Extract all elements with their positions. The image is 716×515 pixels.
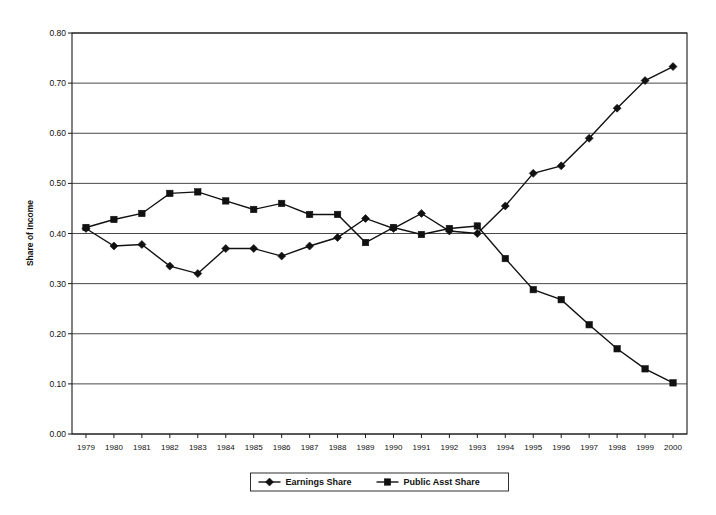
x-axis-tick-label: 1983 — [189, 443, 207, 452]
data-point-marker-public-asst-share — [111, 216, 117, 222]
line-chart: 0.800.700.600.500.400.300.200.100.00 Sha… — [0, 0, 716, 515]
legend-label-earnings-share: Earnings Share — [286, 477, 352, 487]
y-axis-tick-labels: 0.800.700.600.500.400.300.200.100.00 — [49, 28, 66, 439]
data-point-marker-earnings-share — [250, 245, 258, 253]
data-point-marker-public-asst-share — [530, 286, 536, 292]
data-point-marker-public-asst-share — [558, 296, 564, 302]
data-point-marker-public-asst-share — [362, 239, 368, 245]
x-axis-tick-label: 1999 — [636, 443, 654, 452]
data-point-marker-public-asst-share — [586, 322, 592, 328]
data-point-marker-public-asst-share — [670, 380, 676, 386]
data-point-marker-public-asst-share — [251, 206, 257, 212]
data-point-marker-public-asst-share — [195, 189, 201, 195]
data-point-marker-public-asst-share — [390, 224, 396, 230]
y-axis-title: Share of Income — [25, 200, 35, 266]
x-axis-tick-label: 1981 — [133, 443, 151, 452]
y-axis-tickmarks — [68, 33, 72, 434]
x-axis-tick-label: 1984 — [217, 443, 235, 452]
series-line-public-asst-share — [86, 192, 673, 383]
x-axis-tick-label: 1989 — [357, 443, 375, 452]
data-point-marker-earnings-share — [362, 214, 370, 222]
data-point-marker-earnings-share — [306, 242, 314, 250]
data-point-marker-public-asst-share — [223, 198, 229, 204]
x-axis-tick-label: 1982 — [161, 443, 179, 452]
chart-container: 0.800.700.600.500.400.300.200.100.00 Sha… — [0, 0, 716, 515]
x-axis-tick-label: 1987 — [301, 443, 319, 452]
data-point-marker-public-asst-share — [278, 200, 284, 206]
x-axis-tick-label: 1993 — [468, 443, 486, 452]
chart-legend: Earnings SharePublic Asst Share — [251, 473, 509, 491]
x-axis-tick-label: 1986 — [273, 443, 291, 452]
y-axis-tick-label: 0.20 — [49, 329, 66, 339]
data-point-marker-earnings-share — [278, 252, 286, 260]
series-public-asst-share — [83, 189, 676, 386]
x-axis-tick-label: 1991 — [413, 443, 431, 452]
gridlines — [72, 33, 687, 434]
series-earnings-share — [82, 63, 677, 278]
data-point-marker-public-asst-share — [334, 211, 340, 217]
y-axis-tick-label: 0.50 — [49, 178, 66, 188]
data-point-marker-public-asst-share — [502, 255, 508, 261]
x-axis-tickmarks — [86, 434, 673, 438]
x-axis-tick-labels: 1979198019811982198319841985198619871988… — [77, 443, 682, 452]
y-axis-tick-label: 0.80 — [49, 28, 66, 38]
data-series-layer — [82, 63, 677, 386]
series-line-earnings-share — [86, 67, 673, 274]
y-axis-tick-label: 0.70 — [49, 78, 66, 88]
y-axis-tick-label: 0.10 — [49, 379, 66, 389]
x-axis-tick-label: 1994 — [496, 443, 514, 452]
data-point-marker-public-asst-share — [167, 190, 173, 196]
y-axis-tick-label: 0.00 — [49, 429, 66, 439]
data-point-marker-earnings-share — [334, 234, 342, 242]
x-axis-tick-label: 1996 — [552, 443, 570, 452]
y-axis-tick-label: 0.30 — [49, 279, 66, 289]
x-axis-tick-label: 1998 — [608, 443, 626, 452]
data-point-marker-public-asst-share — [446, 225, 452, 231]
data-point-marker-earnings-share — [110, 242, 118, 250]
legend-label-public-asst-share: Public Asst Share — [404, 477, 480, 487]
x-axis-tick-label: 2000 — [664, 443, 682, 452]
data-point-marker-earnings-share — [669, 63, 677, 71]
x-axis-tick-label: 1995 — [524, 443, 542, 452]
data-point-marker-public-asst-share — [139, 210, 145, 216]
data-point-marker-public-asst-share — [306, 211, 312, 217]
data-point-marker-earnings-share — [417, 209, 425, 217]
x-axis-tick-label: 1990 — [385, 443, 403, 452]
data-point-marker-public-asst-share — [614, 346, 620, 352]
data-point-marker-public-asst-share — [474, 223, 480, 229]
x-axis-tick-label: 1979 — [77, 443, 95, 452]
y-axis-tick-label: 0.40 — [49, 229, 66, 239]
data-point-marker-public-asst-share — [83, 224, 89, 230]
x-axis-tick-label: 1997 — [580, 443, 598, 452]
x-axis-tick-label: 1988 — [329, 443, 347, 452]
data-point-marker-public-asst-share — [642, 366, 648, 372]
data-point-marker-public-asst-share — [418, 231, 424, 237]
y-axis-tick-label: 0.60 — [49, 128, 66, 138]
x-axis-tick-label: 1992 — [440, 443, 458, 452]
data-point-marker-public-asst-share — [384, 479, 390, 485]
x-axis-tick-label: 1985 — [245, 443, 263, 452]
x-axis-tick-label: 1980 — [105, 443, 123, 452]
